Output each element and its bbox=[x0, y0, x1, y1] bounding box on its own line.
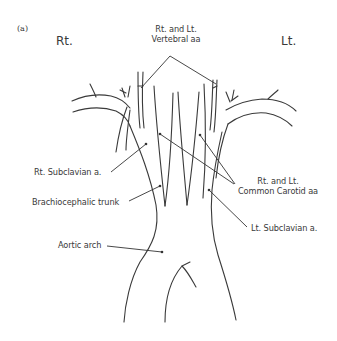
carotid-label-line2: Common Carotid aa bbox=[232, 186, 324, 196]
brachiocephalic-leader bbox=[129, 186, 160, 201]
panel-label: (a) bbox=[17, 24, 28, 33]
brachiocephalic-label: Brachiocephalic trunk bbox=[32, 197, 119, 207]
common-carotid-vessels bbox=[154, 84, 205, 206]
rt-subclavian-label: Rt. Subclavian a. bbox=[34, 167, 101, 177]
aortic-arch-leader bbox=[107, 246, 162, 252]
left-side-label: Lt. bbox=[281, 34, 296, 48]
left-side-vessels bbox=[210, 80, 296, 320]
aortic-arch-label: Aortic arch bbox=[58, 240, 101, 250]
carotid-label-line1: Rt. and Lt. bbox=[232, 176, 324, 186]
aortic-arch-vessel bbox=[165, 262, 196, 322]
common-carotid-label: Rt. and Lt. Common Carotid aa bbox=[232, 176, 324, 196]
aortic-arch-diagram: (a) Rt. Lt. Rt. and Lt. Vertebral aa Rt.… bbox=[0, 0, 337, 341]
leader-lines bbox=[107, 56, 247, 253]
vertebral-leader bbox=[141, 56, 216, 88]
right-side-label: Rt. bbox=[56, 34, 73, 48]
vertebral-label: Rt. and Lt. Vertebral aa bbox=[146, 24, 206, 44]
vertebral-label-line1: Rt. and Lt. bbox=[146, 24, 206, 34]
vertebral-label-line2: Vertebral aa bbox=[146, 34, 206, 44]
lt-subclavian-label: Lt. Subclavian a. bbox=[251, 223, 317, 233]
